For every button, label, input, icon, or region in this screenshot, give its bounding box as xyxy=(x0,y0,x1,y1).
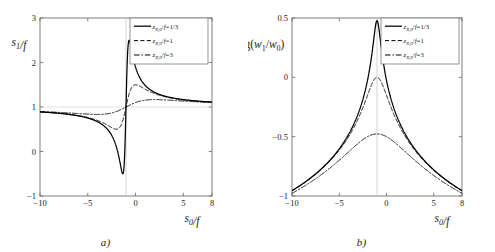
svg-text:s0/f: s0/f xyxy=(185,212,202,228)
panel-a: −10−5058−10123s1/fs0/fzR,0/f=1/3zR,0/f=1… xyxy=(0,0,247,252)
svg-text:−1: −1 xyxy=(27,191,36,201)
svg-text:1: 1 xyxy=(32,102,36,112)
svg-text:0: 0 xyxy=(133,198,137,208)
panel-b-caption: b) xyxy=(238,236,485,248)
svg-text:5: 5 xyxy=(432,198,436,208)
svg-text:8: 8 xyxy=(210,198,214,208)
svg-text:−5: −5 xyxy=(335,198,344,208)
plot-b-svg: −10−5058−1−0.500.5log(w1/w0)s0/fzR,0/f=1… xyxy=(248,0,495,252)
panel-b: −10−5058−1−0.500.5log(w1/w0)s0/fzR,0/f=1… xyxy=(248,0,495,252)
svg-text:0: 0 xyxy=(284,72,288,82)
svg-text:0.5: 0.5 xyxy=(277,13,288,23)
svg-text:0: 0 xyxy=(384,198,388,208)
svg-text:−5: −5 xyxy=(83,198,92,208)
panel-a-caption: a) xyxy=(0,236,229,248)
svg-text:3: 3 xyxy=(32,13,36,23)
svg-text:−1: −1 xyxy=(279,191,288,201)
figure-container: −10−5058−10123s1/fs0/fzR,0/f=1/3zR,0/f=1… xyxy=(0,0,495,252)
svg-text:s1/f: s1/f xyxy=(12,36,29,52)
svg-text:2: 2 xyxy=(32,58,36,68)
svg-text:8: 8 xyxy=(460,198,464,208)
svg-text:−0.5: −0.5 xyxy=(273,132,288,142)
svg-text:log(w1/w0): log(w1/w0) xyxy=(248,38,285,53)
svg-text:0: 0 xyxy=(32,147,36,157)
plot-a-svg: −10−5058−10123s1/fs0/fzR,0/f=1/3zR,0/f=1… xyxy=(0,0,247,252)
svg-text:s0/f: s0/f xyxy=(435,212,452,228)
svg-text:5: 5 xyxy=(181,198,185,208)
